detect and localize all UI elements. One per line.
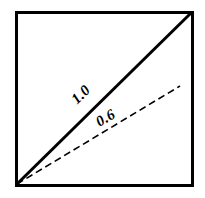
diagram-canvas: 1.0 0.6 — [0, 0, 205, 198]
line-diagram: 1.0 0.6 — [0, 0, 205, 198]
